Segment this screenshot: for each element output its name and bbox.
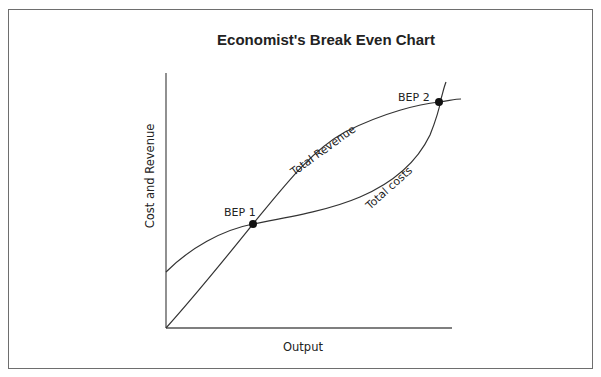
y-axis-label: Cost and Revenue bbox=[143, 124, 157, 229]
break-even-chart: Economist's Break Even Chart Cost and Re… bbox=[0, 0, 601, 377]
total-revenue-label: Total Revenue bbox=[287, 122, 358, 179]
total-costs-label: Total costs bbox=[363, 164, 416, 213]
bep2-label: BEP 2 bbox=[398, 91, 430, 104]
x-axis-label: Output bbox=[283, 340, 323, 354]
chart-title: Economist's Break Even Chart bbox=[217, 31, 435, 48]
bep1-label: BEP 1 bbox=[224, 206, 256, 219]
bep1-marker bbox=[249, 220, 257, 228]
bep2-marker bbox=[435, 98, 443, 106]
total-revenue-curve bbox=[166, 99, 461, 328]
